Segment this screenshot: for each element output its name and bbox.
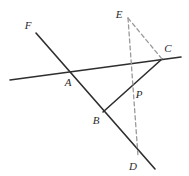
point-label-p: P bbox=[136, 89, 143, 100]
point-label-d: D bbox=[129, 161, 137, 172]
geometry-figure: FABDCEP bbox=[0, 0, 189, 176]
point-label-c: C bbox=[164, 43, 171, 54]
point-label-b: B bbox=[93, 115, 100, 126]
point-label-e: E bbox=[116, 9, 123, 20]
line-through-F-A-B-D bbox=[36, 33, 155, 169]
segments-layer bbox=[10, 18, 181, 169]
transversal-line-through-A-and-C bbox=[10, 57, 181, 80]
point-label-f: F bbox=[25, 20, 32, 31]
point-label-a: A bbox=[65, 77, 72, 88]
dashed-segment-E-to-C bbox=[128, 18, 162, 59]
